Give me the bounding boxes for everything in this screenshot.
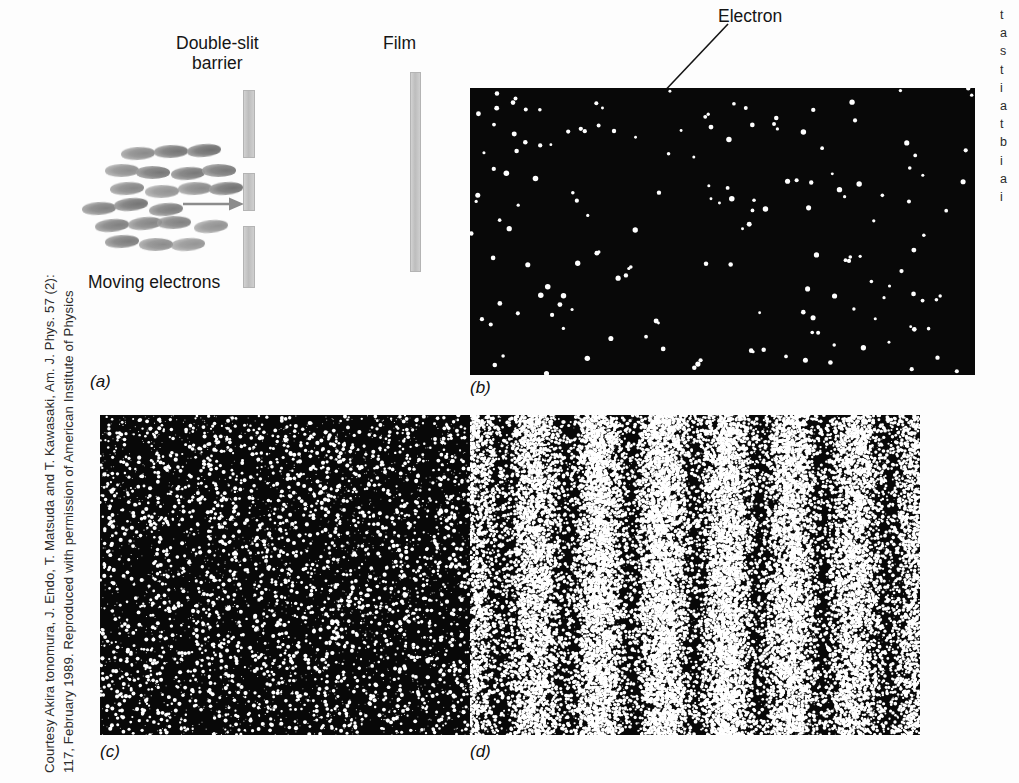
body-text-line: a bbox=[1000, 97, 1019, 115]
electron-blob bbox=[105, 164, 139, 178]
page-body-text-column: t a s t i a t b i a i bbox=[1000, 6, 1019, 246]
electron-blob bbox=[157, 216, 191, 230]
double-slit-barrier-label-line2: barrier bbox=[176, 54, 259, 74]
panel-d-canvas bbox=[470, 415, 920, 735]
film-bar bbox=[410, 72, 421, 272]
panel-b-canvas bbox=[470, 88, 975, 375]
barrier-segment-top bbox=[243, 90, 255, 158]
electron-blob bbox=[139, 238, 173, 252]
electron-blob bbox=[170, 236, 205, 252]
body-text-line: i bbox=[1000, 188, 1019, 206]
panel-d-micrograph bbox=[470, 415, 920, 735]
body-text-line: b bbox=[1000, 133, 1019, 151]
body-text-line: t bbox=[1000, 6, 1019, 24]
body-text-line: a bbox=[1000, 170, 1019, 188]
body-text-line: i bbox=[1000, 152, 1019, 170]
electron-blob bbox=[148, 201, 183, 217]
electron-blob bbox=[209, 181, 244, 196]
double-slit-barrier-label: Double-slit barrier bbox=[176, 34, 259, 73]
beam-direction-arrow-icon bbox=[183, 196, 245, 212]
panel-c-micrograph bbox=[100, 415, 520, 735]
electron-blob bbox=[81, 201, 116, 216]
body-text-line: a bbox=[1000, 24, 1019, 42]
electron-blob bbox=[136, 166, 170, 179]
caption-b: (b) bbox=[470, 378, 491, 398]
body-text-line: s bbox=[1000, 42, 1019, 60]
electron-blob bbox=[193, 218, 228, 234]
body-text-line: t bbox=[1000, 61, 1019, 79]
electron-blob bbox=[109, 181, 144, 196]
electron-blob bbox=[177, 181, 211, 195]
credit-block: Courtesy Akira tonomura, J. Endo, T. Mat… bbox=[0, 0, 80, 783]
panel-b-micrograph bbox=[470, 88, 975, 375]
caption-d: (d) bbox=[470, 742, 491, 762]
electron-blob bbox=[187, 143, 222, 159]
barrier-segment-middle bbox=[243, 173, 255, 211]
body-text-line: t bbox=[1000, 115, 1019, 133]
electron-blob bbox=[104, 234, 139, 249]
panel-c-canvas bbox=[100, 415, 520, 735]
caption-a: (a) bbox=[90, 372, 111, 392]
electron-blob bbox=[94, 218, 129, 234]
barrier-segment-bottom bbox=[243, 226, 255, 288]
moving-electrons-label: Moving electrons bbox=[88, 273, 220, 293]
electron-blob bbox=[144, 184, 178, 198]
panel-a-schematic: Double-slit barrier Film Moving electron… bbox=[88, 18, 488, 373]
credit-line-1: Courtesy Akira tonomura, J. Endo, T. Mat… bbox=[42, 274, 57, 773]
film-label: Film bbox=[383, 34, 416, 54]
caption-c: (c) bbox=[100, 742, 120, 762]
double-slit-barrier-label-line1: Double-slit bbox=[176, 34, 259, 54]
credit-line-2: 117, February 1989. Reproduced with perm… bbox=[61, 290, 76, 773]
electron-blob bbox=[171, 166, 206, 181]
figure-page: Courtesy Akira tonomura, J. Endo, T. Mat… bbox=[0, 0, 1019, 783]
electron-blob bbox=[114, 197, 149, 213]
body-text-line: i bbox=[1000, 79, 1019, 97]
electron-blob bbox=[202, 164, 236, 177]
electron-blob bbox=[120, 146, 155, 161]
electron-blob bbox=[153, 145, 187, 159]
